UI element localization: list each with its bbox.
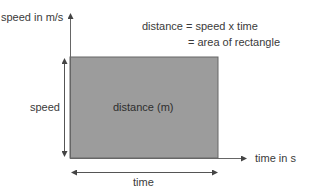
x-axis-label: time in s	[255, 152, 296, 165]
width-label: time	[133, 176, 154, 189]
equation-line-2: = area of rectangle	[188, 36, 280, 49]
equation-line-1: distance = speed x time	[142, 20, 258, 33]
height-label: speed	[30, 101, 60, 114]
y-axis-label: speed in m/s	[1, 11, 63, 24]
rectangle-label: distance (m)	[113, 101, 174, 114]
